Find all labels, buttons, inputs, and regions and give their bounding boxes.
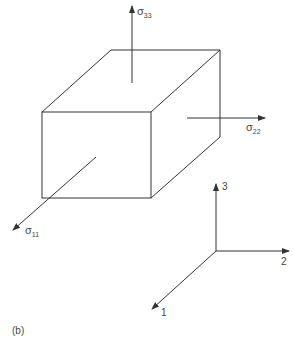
- sigma22-label: σ22: [246, 122, 261, 135]
- sigma33-label: σ33: [137, 6, 152, 19]
- axis-3-label: 3: [222, 182, 228, 192]
- axis-1-arrow: [152, 251, 216, 309]
- stress-element-diagram: [0, 0, 293, 346]
- sigma11-label: σ11: [25, 225, 39, 238]
- sigma11-arrow: [13, 157, 96, 230]
- figure-label: (b): [12, 326, 24, 336]
- axis-1-label: 1: [161, 308, 167, 318]
- axis-2-label: 2: [281, 257, 287, 267]
- cube: [42, 50, 220, 198]
